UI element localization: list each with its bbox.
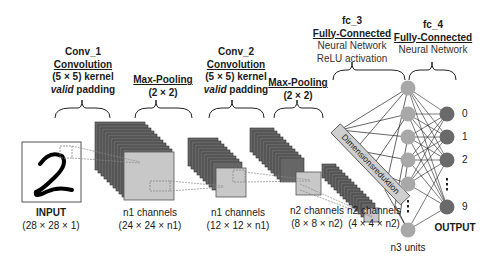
stack1-shape-label: n1 channels (24 × 24 × n1) <box>112 207 188 232</box>
output-digit-0: 0 <box>462 108 468 119</box>
pool1-type: Max-Pooling <box>125 74 201 87</box>
stack4-title: n2 channels <box>341 205 407 218</box>
conv1-type: Convolution <box>40 59 126 72</box>
output-ellipsis-icon <box>446 178 448 191</box>
fc3-type: Fully-Connected <box>310 28 394 41</box>
conv2-type: Convolution <box>193 59 279 72</box>
hidden-units-label: n3 units <box>380 242 436 255</box>
stack4-dims: (4 × 4 × n2) <box>341 218 407 231</box>
fc4-type: Fully-Connected <box>390 32 476 45</box>
output-digit-1: 1 <box>462 131 468 142</box>
feature-map-stack-3 <box>250 128 321 195</box>
stack4-shape-label: n2 channels (4 × 4 × n2) <box>341 205 407 230</box>
fc4-label: fc_4 Fully-Connected Neural Network <box>390 19 476 57</box>
pool2-type: Max-Pooling <box>260 77 336 90</box>
stack2-dims: (12 × 12 × n1) <box>200 220 276 233</box>
pool1-size: (2 × 2) <box>125 87 201 100</box>
input-dims: (28 × 28 × 1) <box>16 220 86 233</box>
stack2-shape-label: n1 channels (12 × 12 × n1) <box>200 207 276 232</box>
fc3-label: fc_3 Fully-Connected Neural Network ReLU… <box>310 15 394 65</box>
stack1-title: n1 channels <box>112 207 188 220</box>
output-digit-2: 2 <box>462 154 468 165</box>
hidden-ellipsis-icon <box>407 200 409 213</box>
conv2-name: Conv_2 <box>193 46 279 59</box>
output-digit-9: 9 <box>462 201 468 212</box>
fc3-name: fc_3 <box>310 15 394 28</box>
input-title: INPUT <box>16 207 86 220</box>
pool2-label: Max-Pooling (2 × 2) <box>260 77 336 102</box>
input-shape-label: INPUT (28 × 28 × 1) <box>16 207 86 232</box>
conv1-padding: valid padding <box>40 84 126 97</box>
output-label: OUTPUT <box>430 222 480 235</box>
pool2-size: (2 × 2) <box>260 90 336 103</box>
stack1-dims: (24 × 24 × n1) <box>112 220 188 233</box>
conv1-kernel: (5 × 5) kernel <box>40 71 126 84</box>
feature-map-stack-2 <box>188 138 246 197</box>
output-layer-nodes <box>440 107 455 215</box>
fc4-name: fc_4 <box>390 19 476 32</box>
conv1-label: Conv_1 Convolution (5 × 5) kernel valid … <box>40 46 126 96</box>
conv1-name: Conv_1 <box>40 46 126 59</box>
pool1-label: Max-Pooling (2 × 2) <box>125 74 201 99</box>
fc3-line1: Neural Network <box>310 40 394 53</box>
fc4-line1: Neural Network <box>390 44 476 57</box>
fc3-line2: ReLU activation <box>310 53 394 66</box>
stack2-title: n1 channels <box>200 207 276 220</box>
